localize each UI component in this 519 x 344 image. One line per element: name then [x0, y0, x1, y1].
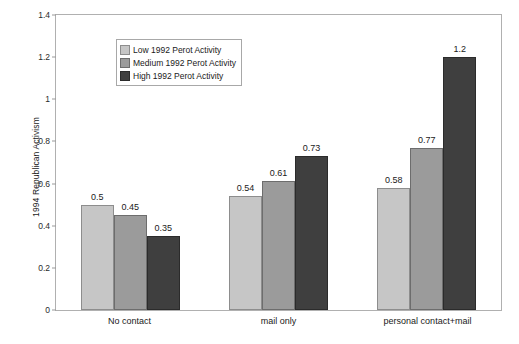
- bar[interactable]: 1.2: [443, 57, 476, 310]
- bar-slot: 0.61: [262, 15, 295, 310]
- bar-value-label: 0.35: [154, 223, 172, 233]
- bar-slot: 0.58: [377, 15, 410, 310]
- bar-slot: 0.77: [410, 15, 443, 310]
- x-axis-category-label: No contact: [55, 316, 204, 326]
- legend-label-low: Low 1992 Perot Activity: [133, 45, 221, 55]
- legend: Low 1992 Perot Activity Medium 1992 Pero…: [116, 39, 242, 86]
- bar[interactable]: 0.73: [295, 156, 328, 310]
- bar[interactable]: 0.45: [114, 215, 147, 310]
- bar-value-label: 1.2: [454, 44, 467, 54]
- bar-chart: 1994 Republican Activism 00.20.40.60.811…: [0, 0, 519, 344]
- bar[interactable]: 0.77: [410, 148, 443, 310]
- bar[interactable]: 0.61: [262, 181, 295, 310]
- y-tick-label: 1.2: [10, 52, 56, 62]
- bar-value-label: 0.58: [385, 175, 403, 185]
- bar[interactable]: 0.58: [377, 188, 410, 310]
- legend-swatch-icon-low: [120, 45, 130, 55]
- y-tick-label: 0.6: [10, 179, 56, 189]
- bar-value-label: 0.54: [237, 183, 255, 193]
- bar-value-label: 0.45: [121, 202, 139, 212]
- legend-label-medium: Medium 1992 Perot Activity: [133, 58, 236, 68]
- y-tick-label: 0.8: [10, 136, 56, 146]
- bar-value-label: 0.77: [418, 135, 436, 145]
- bar[interactable]: 0.54: [229, 196, 262, 310]
- bar-value-label: 0.5: [91, 192, 104, 202]
- y-tick-label: 1: [10, 94, 56, 104]
- bar-group: 0.540.610.73: [229, 15, 328, 310]
- legend-label-high: High 1992 Perot Activity: [133, 71, 223, 81]
- legend-item-medium: Medium 1992 Perot Activity: [120, 56, 236, 69]
- bar-slot: 1.2: [443, 15, 476, 310]
- bar-value-label: 0.73: [303, 143, 321, 153]
- x-axis-labels: No contactmail onlypersonal contact+mail: [55, 316, 502, 326]
- y-tick-label: 0: [10, 305, 56, 315]
- y-tick-label: 0.4: [10, 221, 56, 231]
- bar[interactable]: 0.35: [147, 236, 180, 310]
- y-tick-label: 0.2: [10, 263, 56, 273]
- x-axis-category-label: mail only: [204, 316, 353, 326]
- x-axis-category-label: personal contact+mail: [353, 316, 502, 326]
- bar-value-label: 0.61: [270, 168, 288, 178]
- y-tick-label: 1.4: [10, 10, 56, 20]
- bar[interactable]: 0.5: [81, 205, 114, 310]
- legend-item-low: Low 1992 Perot Activity: [120, 43, 236, 56]
- legend-item-high: High 1992 Perot Activity: [120, 69, 236, 82]
- bar-slot: 0.5: [81, 15, 114, 310]
- bar-slot: 0.73: [295, 15, 328, 310]
- legend-swatch-icon-high: [120, 71, 130, 81]
- bar-group: 0.580.771.2: [377, 15, 476, 310]
- legend-swatch-icon-medium: [120, 58, 130, 68]
